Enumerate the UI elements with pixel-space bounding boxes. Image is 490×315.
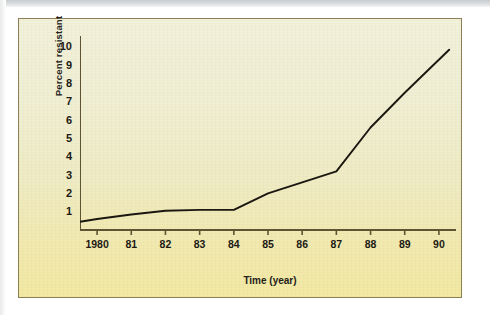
x-axis-tick-label: 86 [286, 239, 318, 250]
y-axis-tick-label: 10 [54, 41, 72, 52]
y-axis-tick-label: 8 [54, 78, 72, 89]
y-axis-tick-label: 1 [54, 206, 72, 217]
y-axis-tick-label: 3 [54, 170, 72, 181]
data-series-line [80, 50, 449, 222]
y-axis-tick-label: 2 [54, 188, 72, 199]
x-axis-tick-label: 88 [355, 239, 387, 250]
x-axis-tick-label: 1980 [81, 239, 113, 250]
x-axis-tick-label: 82 [149, 239, 181, 250]
x-axis-tick-label: 87 [320, 239, 352, 250]
chart-line-svg [80, 33, 460, 248]
chart-figure: Percent resistant Time (year) 1234567891… [18, 18, 462, 298]
x-axis-tick-label: 83 [184, 239, 216, 250]
x-axis-tick-label: 85 [252, 239, 284, 250]
screenshot-root: Percent resistant Time (year) 1234567891… [0, 0, 490, 315]
scan-edge-top [0, 0, 490, 7]
y-axis-tick-label: 5 [54, 133, 72, 144]
x-axis-tick-label: 81 [115, 239, 147, 250]
y-axis-tick-label: 9 [54, 60, 72, 71]
plot-area [80, 33, 460, 248]
y-axis-tick-label: 4 [54, 151, 72, 162]
scan-edge-left [0, 0, 6, 315]
x-axis-label: Time (year) [80, 275, 460, 286]
y-axis-tick-label: 7 [54, 96, 72, 107]
x-axis-tick-label: 90 [423, 239, 455, 250]
y-axis-tick-label: 6 [54, 115, 72, 126]
x-axis-tick-label: 89 [389, 239, 421, 250]
x-axis-tick-label: 84 [218, 239, 250, 250]
